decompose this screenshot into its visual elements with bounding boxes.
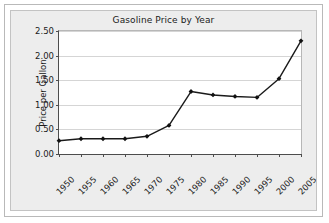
y-tick-label: 0.00 [35, 149, 54, 159]
x-tick-label: 1975 [164, 174, 186, 196]
x-tick-mark [169, 154, 170, 157]
x-tick-label: 1995 [252, 174, 274, 196]
y-tick-label: 2.50 [35, 26, 54, 36]
plot-area: Price per Gallon 0.000.501.001.502.002.5… [58, 30, 302, 155]
series-marker [145, 134, 150, 139]
x-tick-label: 1980 [186, 174, 208, 196]
series-marker [211, 93, 216, 98]
series-marker [233, 94, 238, 99]
x-tick-mark [81, 154, 82, 157]
x-tick-label: 1955 [76, 174, 98, 196]
x-tick-label: 2000 [274, 174, 296, 196]
series-marker [79, 136, 84, 141]
x-tick-mark [147, 154, 148, 157]
chart-panel: Gasoline Price by Year Price per Gallon … [10, 10, 317, 211]
x-tick-mark [125, 154, 126, 157]
x-tick-label: 1985 [208, 174, 230, 196]
x-tick-mark [213, 154, 214, 157]
figure-frame: Gasoline Price by Year Price per Gallon … [4, 4, 323, 217]
x-tick-mark [235, 154, 236, 157]
x-tick-mark [59, 154, 60, 157]
y-tick-label: 2.00 [35, 51, 54, 61]
y-axis-title: Price per Gallon [38, 59, 48, 126]
series-layer [59, 31, 301, 154]
x-tick-label: 1990 [230, 174, 252, 196]
chart-title: Gasoline Price by Year [11, 15, 316, 25]
x-tick-label: 1950 [54, 174, 76, 196]
x-tick-mark [301, 154, 302, 157]
x-tick-label: 2005 [296, 174, 317, 196]
x-tick-label: 1970 [142, 174, 164, 196]
y-tick-label: 1.00 [35, 100, 54, 110]
x-tick-mark [103, 154, 104, 157]
x-tick-label: 1965 [120, 174, 142, 196]
series-line [59, 41, 301, 141]
x-tick-mark [191, 154, 192, 157]
series-marker [123, 136, 128, 141]
x-tick-mark [257, 154, 258, 157]
y-tick-label: 0.50 [35, 124, 54, 134]
x-tick-label: 1960 [98, 174, 120, 196]
x-tick-mark [279, 154, 280, 157]
y-tick-label: 1.50 [35, 75, 54, 85]
series-marker [101, 136, 106, 141]
series-marker [57, 138, 62, 143]
